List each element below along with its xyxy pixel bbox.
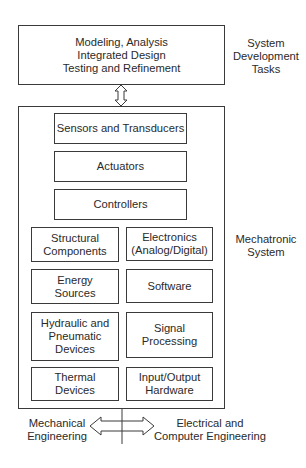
component-hydraulic-pneumatic: Hydraulic and Pneumatic Devices [31, 312, 119, 361]
component-actuators: Actuators [54, 151, 187, 182]
component-label: Energy Sources [54, 274, 95, 300]
component-label: Input/Output Hardware [139, 371, 201, 397]
component-label: Software [147, 280, 191, 293]
vertical-double-arrow-icon [115, 85, 127, 106]
component-thermal: Thermal Devices [31, 367, 119, 401]
component-label: Electronics (Analog/Digital) [131, 231, 207, 257]
mechatronic-system-label: Mechatronic System [226, 233, 306, 259]
component-label: Hydraulic and Pneumatic Devices [41, 317, 109, 356]
component-io-hardware: Input/Output Hardware [126, 367, 213, 401]
component-label: Signal Processing [142, 322, 197, 348]
component-controllers: Controllers [54, 189, 187, 220]
component-energy-sources: Energy Sources [31, 269, 119, 304]
electrical-computer-engineering-label: Electrical and Computer Engineering [154, 417, 266, 443]
component-label: Controllers [93, 198, 147, 211]
component-signal-processing: Signal Processing [126, 312, 213, 358]
component-label: Sensors and Transducers [57, 122, 184, 135]
component-label: Structural Components [43, 232, 106, 258]
component-electronics: Electronics (Analog/Digital) [126, 227, 213, 261]
component-label: Thermal Devices [54, 371, 95, 397]
component-software: Software [126, 269, 213, 303]
component-sensors-transducers: Sensors and Transducers [54, 113, 187, 144]
component-label: Actuators [97, 160, 144, 173]
mechanical-engineering-label: Mechanical Engineering [22, 417, 92, 443]
component-structural: Structural Components [31, 227, 119, 262]
